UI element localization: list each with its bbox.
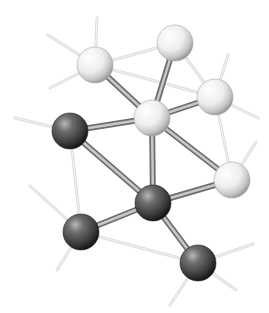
light-atom-f bbox=[214, 162, 250, 198]
light-atom-d bbox=[134, 100, 170, 136]
molecule-illustration bbox=[0, 0, 269, 313]
dark-atom-h bbox=[63, 214, 99, 250]
light-atom-b bbox=[157, 25, 193, 61]
light-atom-c bbox=[197, 79, 233, 115]
dark-atom-i bbox=[180, 245, 216, 281]
dark-atom-e bbox=[52, 113, 88, 149]
thin-stub-lines bbox=[15, 18, 258, 305]
light-atom-a bbox=[77, 47, 113, 83]
dark-atom-g bbox=[135, 185, 171, 221]
